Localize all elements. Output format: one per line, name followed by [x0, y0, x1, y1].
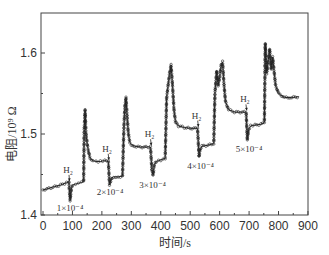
annotation-label: H₂: [102, 144, 112, 154]
y-axis-title: 电阻/10⁹ Ω: [5, 106, 19, 162]
annotation-label: 3×10⁻⁴: [139, 180, 166, 190]
annotation-label: 5×10⁻⁴: [236, 144, 263, 154]
x-tick-label: 900: [298, 219, 318, 233]
x-tick-label: 800: [269, 219, 289, 233]
x-tick-label: 700: [239, 219, 259, 233]
annotation-label: H₂: [240, 94, 250, 104]
x-axis-title: 时间/s: [159, 236, 191, 250]
annotation-label: 1×10⁻⁴: [57, 203, 84, 213]
x-tick-label: 400: [151, 219, 171, 233]
data-series: [42, 43, 299, 203]
x-tick-label: 200: [92, 219, 112, 233]
y-tick-label: 1.5: [20, 127, 37, 141]
annotation-label: 2×10⁻⁴: [97, 187, 124, 197]
x-tick-label: 300: [121, 219, 141, 233]
annotation-label: H₂: [192, 111, 202, 121]
annotation-label: H₂: [145, 129, 155, 139]
y-tick-label: 1.6: [20, 46, 37, 60]
annotation-label: H₂: [63, 165, 73, 175]
annotation-label: 4×10⁻⁴: [187, 161, 214, 171]
x-tick-label: 600: [210, 219, 230, 233]
x-tick-label: 100: [62, 219, 82, 233]
x-tick-label: 0: [40, 219, 47, 233]
x-axis-ticks: 0100200300400500600700800900: [40, 211, 319, 233]
resistance-time-chart: 0100200300400500600700800900 1.41.51.6 H…: [0, 0, 329, 255]
x-tick-label: 500: [180, 219, 200, 233]
y-tick-label: 1.4: [20, 208, 37, 222]
